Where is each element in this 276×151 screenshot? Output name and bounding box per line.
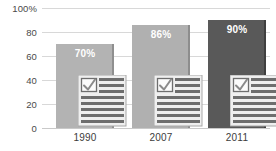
bar-value-label-1990: 70% [56,48,114,59]
checklist-document-icon-2007 [154,75,206,128]
bar-group-2011[interactable]: 90% [208,8,266,128]
y-tick-label-80: 80 [26,27,37,38]
bars-layer: 70% [42,8,270,128]
y-tick-label-40: 40 [26,75,37,86]
y-tick-label-20: 20 [26,99,37,110]
bar-group-1990[interactable]: 70% [56,8,114,128]
bar-value-label-2007: 86% [132,29,190,40]
y-axis: 100% 80 60 40 20 0 [0,0,40,151]
x-tick-label-2007: 2007 [132,132,190,143]
bar-value-label-2011: 90% [208,24,266,35]
checklist-document-icon-1990 [78,75,130,128]
checklist-document-icon-2011 [230,75,276,128]
bar-group-2007[interactable]: 86% [132,8,190,128]
y-tick-label-60: 60 [26,51,37,62]
x-axis: 1990 2007 2011 [42,129,270,151]
x-tick-label-2011: 2011 [208,132,266,143]
x-tick-label-1990: 1990 [56,132,114,143]
bar-chart: 100% 80 60 40 20 0 70% [0,0,276,151]
y-tick-label-0: 0 [32,123,37,134]
y-tick-label-100: 100% [12,3,37,14]
